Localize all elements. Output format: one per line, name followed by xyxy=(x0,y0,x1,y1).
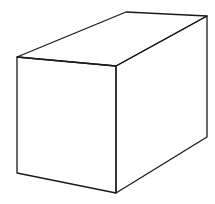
box-top-face xyxy=(17,12,207,66)
box-right-face xyxy=(116,16,207,193)
box-diagram xyxy=(0,0,215,204)
box-front-face xyxy=(17,57,116,193)
